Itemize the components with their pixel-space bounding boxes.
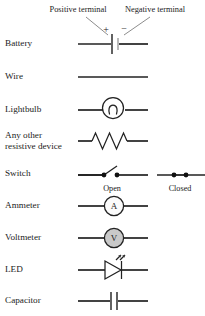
row-label-capacitor: Capacitor — [5, 295, 41, 305]
switch-closed-terminal-contact — [184, 173, 189, 178]
symbol-ammeter: A — [78, 196, 148, 215]
ammeter-letter: A — [111, 201, 118, 211]
negative-terminal-leader-line — [124, 17, 150, 35]
switch-open-pivot-contact — [102, 173, 107, 178]
symbol-switch-closed — [157, 173, 205, 178]
switch-open-caption: Open — [103, 184, 121, 193]
lightbulb-filament — [109, 105, 117, 114]
switch-closed-pivot-contact — [172, 173, 177, 178]
led-emission-arrows — [116, 255, 125, 260]
circuit-symbols-figure: Positive terminal Negative terminal Batt… — [0, 0, 205, 316]
symbol-voltmeter: V — [78, 228, 148, 247]
row-label-resistive-device-line1: Any other — [5, 130, 42, 140]
row-label-led: LED — [5, 264, 23, 274]
symbol-switch-open — [78, 166, 148, 177]
positive-terminal-annotation: Positive terminal — [50, 5, 108, 14]
row-label-lightbulb: Lightbulb — [5, 104, 42, 114]
symbol-capacitor — [78, 292, 148, 310]
symbol-led — [78, 255, 148, 279]
led-triangle — [105, 261, 121, 279]
row-label-battery: Battery — [5, 38, 32, 48]
symbol-lightbulb — [78, 98, 148, 119]
row-label-ammeter: Ammeter — [5, 200, 40, 210]
resistor-zigzag — [92, 133, 127, 149]
lightbulb-envelope — [103, 98, 124, 119]
switch-open-terminal-contact — [115, 173, 120, 178]
battery-plus-sign: + — [103, 24, 109, 35]
battery-minus-sign: − — [121, 23, 127, 34]
negative-terminal-annotation: Negative terminal — [125, 5, 186, 14]
voltmeter-letter: V — [111, 233, 118, 243]
row-label-wire: Wire — [5, 71, 23, 81]
switch-closed-caption: Closed — [169, 184, 192, 193]
row-label-switch: Switch — [5, 168, 31, 178]
symbol-battery — [78, 34, 148, 54]
symbol-resistor — [78, 133, 148, 149]
row-label-resistive-device-line2: resistive device — [5, 141, 62, 151]
row-label-voltmeter: Voltmeter — [5, 232, 41, 242]
